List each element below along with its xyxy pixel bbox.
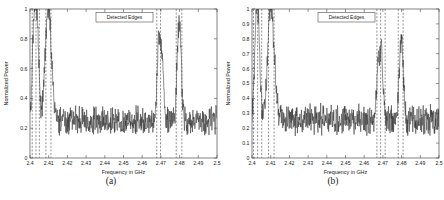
x-tick-label: 2.48	[175, 160, 185, 166]
y-tick-label: 0	[247, 155, 250, 161]
x-axis-title: Frequency in GHz	[324, 169, 368, 175]
x-tick-label: 2.42	[62, 160, 72, 166]
y-tick-label: 1	[25, 6, 28, 12]
spectrum-chart-b: 2.42.412.422.432.442.452.462.472.482.492…	[222, 0, 444, 176]
plot-content	[30, 9, 217, 158]
x-tick-label: 2.43	[81, 160, 91, 166]
y-tick-label: 0.8	[242, 36, 249, 42]
figure-container: 2.42.412.422.432.442.452.462.472.482.492…	[0, 0, 444, 200]
plot-content	[252, 9, 439, 158]
plot-frame	[252, 9, 439, 158]
spectrum-chart-a: 2.42.412.422.432.442.452.462.472.482.492…	[0, 0, 222, 176]
legend: Detected Edges	[96, 13, 153, 23]
y-tick-label: 0	[25, 155, 28, 161]
x-tick-label: 2.49	[415, 160, 425, 166]
y-axis-title: Normalized Power	[3, 61, 9, 105]
x-tick-label: 2.5	[435, 160, 442, 166]
x-tick-label: 2.41	[266, 160, 276, 166]
x-tick-label: 2.47	[378, 160, 388, 166]
x-axis-title: Frequency in GHz	[102, 169, 146, 175]
y-tick-label: 0.6	[242, 66, 249, 72]
y-tick-label: 0.8	[20, 36, 27, 42]
power-spectrum-trace	[252, 9, 439, 136]
y-tick-label: 0.2	[242, 125, 249, 131]
x-tick-label: 2.47	[156, 160, 166, 166]
chart-panel-a: 2.42.412.422.432.442.452.462.472.482.492…	[0, 0, 222, 200]
y-tick-label: 0.5	[242, 80, 249, 86]
chart-panel-b: 2.42.412.422.432.442.452.462.472.482.492…	[222, 0, 444, 200]
x-tick-label: 2.44	[322, 160, 332, 166]
y-tick-label: 0.2	[20, 125, 27, 131]
y-tick-label: 0.4	[242, 95, 249, 101]
legend-label: Detected Edges	[329, 14, 365, 20]
x-tick-label: 2.45	[118, 160, 128, 166]
y-tick-label: 0.1	[242, 140, 249, 146]
panel-caption-a: (a)	[0, 176, 222, 186]
legend: Detected Edges	[318, 13, 375, 23]
x-tick-label: 2.48	[397, 160, 407, 166]
x-tick-label: 2.41	[44, 160, 54, 166]
y-tick-label: 0.9	[242, 21, 249, 27]
y-axis-title: Normalized Power	[225, 61, 231, 105]
y-tick-label: 0.3	[242, 110, 249, 116]
panel-caption-b: (b)	[222, 176, 444, 186]
x-tick-label: 2.44	[100, 160, 110, 166]
x-tick-label: 2.45	[340, 160, 350, 166]
x-tick-label: 2.42	[284, 160, 294, 166]
x-tick-label: 2.46	[137, 160, 147, 166]
power-spectrum-trace	[30, 9, 217, 136]
y-tick-label: 0.7	[242, 51, 249, 57]
x-tick-label: 2.5	[213, 160, 220, 166]
legend-label: Detected Edges	[107, 14, 143, 20]
x-tick-label: 2.43	[303, 160, 313, 166]
y-tick-label: 0.6	[20, 66, 27, 72]
x-tick-label: 2.46	[359, 160, 369, 166]
x-tick-label: 2.49	[193, 160, 203, 166]
plot-frame	[30, 9, 217, 158]
y-tick-label: 1	[247, 6, 250, 12]
y-tick-label: 0.4	[20, 95, 27, 101]
